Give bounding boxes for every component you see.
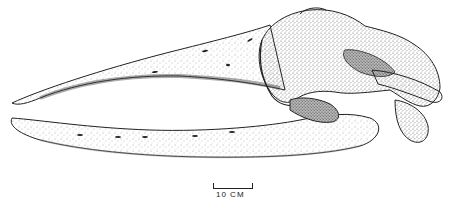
rostrum <box>12 25 285 104</box>
skull-illustration <box>0 0 461 211</box>
scale-bar: 10 CM <box>213 183 253 203</box>
scale-bar-line <box>213 183 253 189</box>
scale-bar-label: 10 CM <box>216 190 245 199</box>
